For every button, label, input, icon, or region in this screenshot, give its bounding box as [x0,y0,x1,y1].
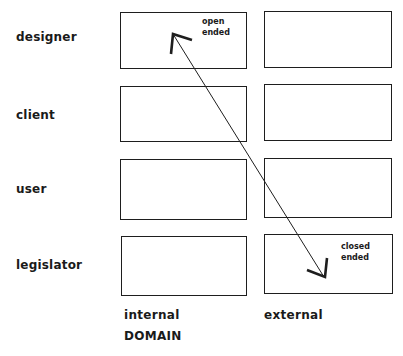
double-arrow-icon [0,0,403,356]
axis-title-domain: DOMAIN [124,329,182,343]
column-label-internal: internal [124,308,180,322]
column-label-external: external [264,308,323,322]
